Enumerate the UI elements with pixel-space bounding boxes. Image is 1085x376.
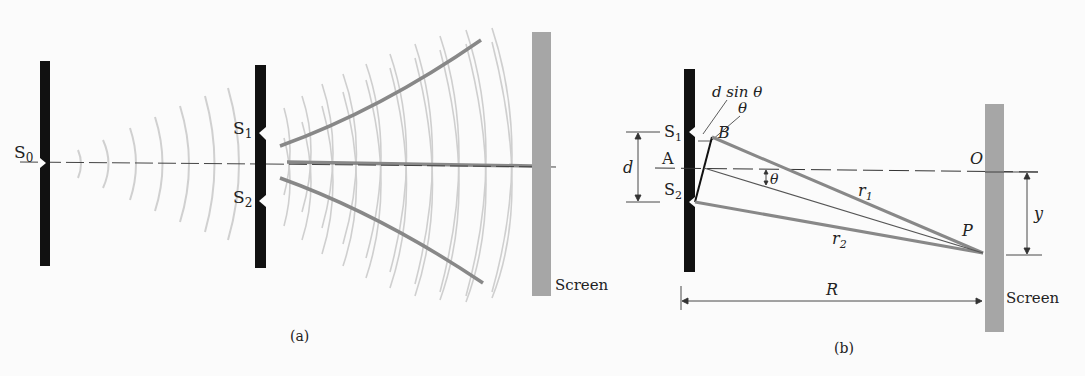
label-s1-b: S1 [664, 122, 682, 144]
label-s0: S0 [14, 142, 33, 165]
theta-arrow [764, 170, 768, 185]
caption-b: (b) [834, 340, 854, 356]
label-d: d [623, 158, 633, 177]
label-screen-a: Screen [555, 276, 609, 294]
label-s2: S2 [233, 187, 252, 210]
label-a: A [661, 149, 674, 168]
double-slit-diagram: S0 S1 S2 [0, 0, 1085, 376]
y-dimension [1024, 173, 1030, 254]
barrier-s0 [40, 61, 50, 266]
label-R: R [825, 280, 838, 299]
label-p: P [961, 221, 973, 240]
label-screen-b: Screen [1006, 289, 1060, 307]
barrier-b [684, 69, 695, 272]
figure-a: S0 S1 S2 [14, 28, 609, 344]
label-s2-b: S2 [664, 180, 682, 202]
caption-a: (a) [290, 328, 309, 344]
label-theta-top: θ [738, 99, 747, 117]
barrier-s1-s2 [255, 65, 266, 268]
label-theta-mid: θ [770, 171, 779, 187]
axis-line [20, 162, 262, 164]
label-r2: r2 [832, 229, 847, 251]
label-r1: r1 [858, 181, 873, 203]
screen-a [532, 32, 551, 296]
label-y: y [1033, 204, 1044, 223]
label-o: O [970, 149, 983, 168]
screen-b [985, 104, 1004, 332]
figure-b: d S1 S2 A B d sin θ θ θ r1 [623, 69, 1060, 356]
label-s1: S1 [233, 118, 252, 141]
